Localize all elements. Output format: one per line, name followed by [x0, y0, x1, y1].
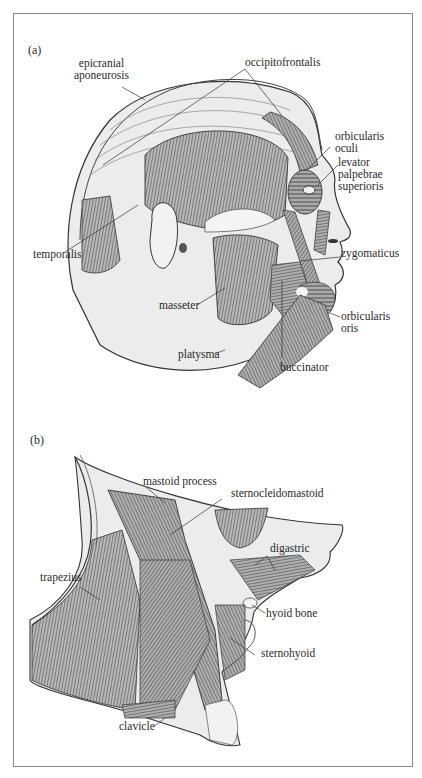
label-buccinator: buccinator	[280, 361, 329, 373]
label-line: oris	[341, 322, 390, 334]
label-epicranial-aponeurosis: epicranial aponeurosis	[74, 57, 129, 81]
label-orbicularis-oris: orbicularis oris	[341, 310, 390, 334]
head-illustration	[68, 79, 350, 388]
label-temporalis: temporalis	[33, 248, 82, 260]
anatomy-illustration	[0, 0, 422, 778]
label-clavicle: clavicle	[119, 720, 155, 732]
label-line: epicranial	[74, 57, 129, 69]
label-line: superioris	[338, 180, 383, 192]
label-line: levator	[338, 156, 383, 168]
label-trapezius: trapezius	[40, 571, 82, 583]
label-occipitofrontalis: occipitofrontalis	[245, 56, 320, 68]
label-zygomaticus: zygomaticus	[341, 247, 399, 259]
label-mastoid-process: mastoid process	[143, 475, 217, 487]
label-sternocleidomastoid: sternocleidomastoid	[231, 487, 324, 499]
label-line: orbicularis	[335, 130, 384, 142]
panel-b-label: (b)	[30, 433, 44, 448]
label-digastric: digastric	[270, 542, 310, 554]
label-sternohyoid: sternohyoid	[261, 647, 315, 659]
label-line: aponeurosis	[74, 69, 129, 81]
label-line: orbicularis	[341, 310, 390, 322]
panel-a-label: (a)	[28, 43, 41, 58]
label-line: palpebrae	[338, 168, 383, 180]
label-orbicularis-oculi: orbicularis oculi	[335, 130, 384, 154]
label-platysma: platysma	[178, 348, 220, 360]
label-levator-palpebrae-superioris: levator palpebrae superioris	[338, 156, 383, 192]
label-hyoid-bone: hyoid bone	[266, 607, 317, 619]
label-line: oculi	[335, 142, 384, 154]
label-masseter: masseter	[159, 299, 199, 311]
